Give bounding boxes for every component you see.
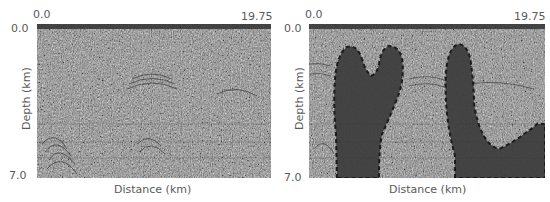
y-axis-label: Depth (km) bbox=[20, 67, 33, 130]
y-bottom-label: 7.0 bbox=[284, 172, 302, 183]
y-axis-label: Depth (km) bbox=[293, 67, 306, 130]
x-start-label: 0.0 bbox=[305, 9, 323, 20]
seismic-image-right bbox=[309, 24, 545, 178]
seismic-image-left bbox=[37, 24, 271, 178]
x-end-label: 19.75 bbox=[241, 11, 273, 22]
x-axis-label: Distance (km) bbox=[389, 184, 466, 195]
x-start-label: 0.0 bbox=[33, 9, 51, 20]
y-bottom-label: 7.0 bbox=[9, 170, 27, 181]
x-axis-label: Distance (km) bbox=[114, 184, 191, 195]
left-panel: 0.0 0.0 19.75 Depth (km) 7.0 bbox=[0, 0, 275, 202]
right-panel: 0.0 0.0 19.75 Depth (km) 7.0 bbox=[275, 0, 550, 202]
x-end-label: 19.75 bbox=[514, 11, 546, 22]
y-top-label: 0.0 bbox=[284, 23, 302, 34]
y-top-label: 0.0 bbox=[11, 23, 29, 34]
